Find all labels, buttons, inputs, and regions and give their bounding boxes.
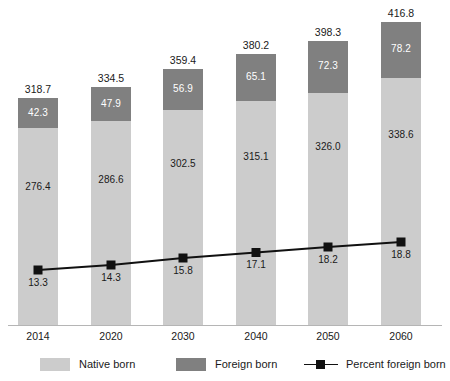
percent-label-2060: 18.8: [381, 249, 421, 260]
plot-area: 318.7 42.3 276.4 334.5 47.9 286.6 359.4 …: [0, 0, 450, 326]
bar-value-native-2060: 338.6: [381, 129, 421, 140]
bar-value-native-2014: 276.4: [18, 181, 58, 192]
bar-segment-native-2020[interactable]: 286.6: [91, 121, 131, 326]
legend-item-foreign-born[interactable]: Foreign born: [176, 352, 277, 376]
x-axis-tick-labels: 2014 2020 2030 2040 2050 2060: [0, 329, 450, 345]
bar-segment-foreign-2040[interactable]: 65.1: [236, 54, 276, 101]
bar-value-foreign-2014: 42.3: [18, 107, 58, 118]
percent-label-2050: 18.2: [308, 254, 348, 265]
bar-value-native-2030: 302.5: [163, 158, 203, 169]
total-label-2020: 334.5: [83, 73, 139, 84]
bar-value-native-2020: 286.6: [91, 174, 131, 185]
legend-label-native-born: Native born: [79, 358, 135, 370]
bar-group-2060[interactable]: 416.8 78.2 338.6: [381, 22, 421, 326]
bar-group-2020[interactable]: 334.5 47.9 286.6: [91, 87, 131, 326]
bar-segment-native-2030[interactable]: 302.5: [163, 110, 203, 326]
bar-group-2014[interactable]: 318.7 42.3 276.4: [18, 98, 58, 326]
x-axis-baseline: [8, 325, 442, 326]
total-label-2014: 318.7: [10, 84, 66, 95]
bar-group-2030[interactable]: 359.4 56.9 302.5: [163, 69, 203, 326]
bar-segment-native-2060[interactable]: 338.6: [381, 78, 421, 326]
legend-square-marker-icon: [316, 360, 325, 369]
x-tick-2030: 2030: [155, 329, 211, 343]
stacked-bar-line-chart: 318.7 42.3 276.4 334.5 47.9 286.6 359.4 …: [0, 0, 450, 381]
bar-segment-native-2040[interactable]: 315.1: [236, 101, 276, 326]
legend-swatch-foreign-born: [176, 358, 206, 371]
percent-label-2014: 13.3: [18, 277, 58, 288]
total-label-2030: 359.4: [155, 55, 211, 66]
bar-segment-foreign-2030[interactable]: 56.9: [163, 69, 203, 110]
percent-label-2040: 17.1: [236, 259, 276, 270]
bar-value-foreign-2030: 56.9: [163, 83, 203, 94]
x-tick-2050: 2050: [300, 329, 356, 343]
legend-swatch-native-born: [40, 358, 70, 371]
bar-group-2050[interactable]: 398.3 72.3 326.0: [308, 41, 348, 326]
x-tick-2060: 2060: [373, 329, 429, 343]
total-label-2050: 398.3: [300, 27, 356, 38]
bar-value-foreign-2020: 47.9: [91, 98, 131, 109]
x-tick-2040: 2040: [228, 329, 284, 343]
bar-group-2040[interactable]: 380.2 65.1 315.1: [236, 54, 276, 326]
legend-line-marker-icon: [304, 358, 338, 371]
percent-label-2020: 14.3: [91, 272, 131, 283]
bar-value-native-2050: 326.0: [308, 141, 348, 152]
legend-label-foreign-born: Foreign born: [215, 358, 277, 370]
bar-value-native-2040: 315.1: [236, 151, 276, 162]
bar-segment-foreign-2014[interactable]: 42.3: [18, 98, 58, 128]
legend-label-percent-foreign-born: Percent foreign born: [346, 358, 446, 370]
total-label-2040: 380.2: [228, 40, 284, 51]
bar-value-foreign-2040: 65.1: [236, 71, 276, 82]
bar-segment-native-2014[interactable]: 276.4: [18, 128, 58, 326]
bar-value-foreign-2050: 72.3: [308, 60, 348, 71]
bar-segment-foreign-2020[interactable]: 47.9: [91, 87, 131, 121]
legend-item-native-born[interactable]: Native born: [40, 352, 135, 376]
chart-legend: Native born Foreign born Percent foreign…: [0, 352, 450, 376]
bar-segment-foreign-2050[interactable]: 72.3: [308, 41, 348, 93]
x-tick-2014: 2014: [10, 329, 66, 343]
percent-label-2030: 15.8: [163, 265, 203, 276]
legend-item-percent-foreign-born[interactable]: Percent foreign born: [304, 352, 446, 376]
total-label-2060: 416.8: [373, 8, 429, 19]
bar-value-foreign-2060: 78.2: [381, 43, 421, 54]
bar-segment-native-2050[interactable]: 326.0: [308, 93, 348, 326]
bar-segment-foreign-2060[interactable]: 78.2: [381, 22, 421, 78]
x-tick-2020: 2020: [83, 329, 139, 343]
